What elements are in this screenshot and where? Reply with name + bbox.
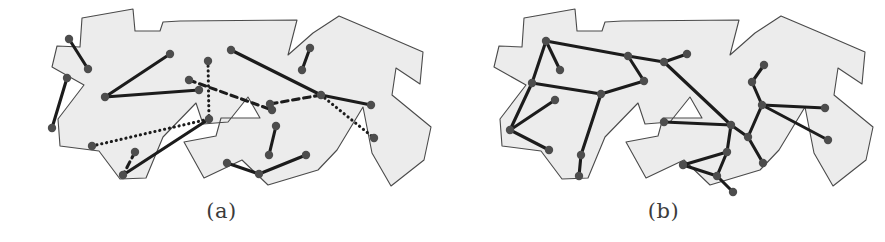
site-point [556, 66, 564, 74]
site-point [195, 86, 203, 94]
site-point [101, 93, 109, 101]
site-point [317, 91, 325, 99]
panel-b-canvas [442, 0, 885, 200]
site-point [370, 134, 378, 142]
site-point [759, 159, 767, 167]
site-point [298, 66, 306, 74]
panel-a: (a) [0, 0, 443, 242]
site-point [63, 74, 71, 82]
site-point [84, 65, 92, 73]
site-point [185, 76, 193, 84]
figure-root: (a) (b) [0, 0, 885, 242]
site-point [65, 35, 73, 43]
site-point [758, 101, 766, 109]
site-point [723, 148, 731, 156]
site-point [204, 57, 212, 65]
site-point [266, 100, 274, 108]
site-point [265, 151, 273, 159]
polygon-boundary [494, 9, 873, 186]
site-point [640, 77, 648, 85]
site-point [760, 61, 768, 69]
site-point [727, 121, 735, 129]
site-point [551, 96, 559, 104]
site-point [367, 101, 375, 109]
site-point [506, 126, 514, 134]
site-point [205, 115, 213, 123]
site-point [227, 46, 235, 54]
site-point [660, 118, 668, 126]
site-point [824, 136, 832, 144]
site-point [545, 146, 553, 154]
site-point [683, 50, 691, 58]
site-point [255, 170, 263, 178]
segment-dotted [208, 61, 209, 119]
site-point [119, 171, 127, 179]
site-point [575, 172, 583, 180]
site-point [679, 161, 687, 169]
site-point [528, 79, 536, 87]
site-point [624, 52, 632, 60]
site-point [597, 90, 605, 98]
panel-b-caption: (b) [442, 196, 885, 226]
panel-a-caption: (a) [0, 196, 443, 226]
site-point [131, 148, 139, 156]
site-point [166, 50, 174, 58]
site-point [48, 124, 56, 132]
site-point [577, 151, 585, 159]
site-point [660, 58, 668, 66]
site-point [223, 159, 231, 167]
site-point [272, 122, 280, 130]
site-point [302, 151, 310, 159]
site-point [729, 188, 737, 196]
panel-b: (b) [442, 0, 885, 242]
site-point [88, 142, 96, 150]
site-point [306, 44, 314, 52]
site-point [542, 37, 550, 45]
site-point [748, 78, 756, 86]
site-point [744, 133, 752, 141]
site-point [713, 172, 721, 180]
panel-a-canvas [0, 0, 443, 200]
site-point [821, 104, 829, 112]
